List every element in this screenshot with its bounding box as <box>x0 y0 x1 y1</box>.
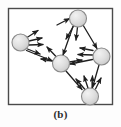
edge-left-out-3 <box>29 45 43 46</box>
graph-node-bottom <box>82 88 99 105</box>
edge-bottom-out-3 <box>92 76 93 88</box>
graph-node-left <box>12 34 29 51</box>
graph-node-right <box>93 48 110 65</box>
graph-node-center <box>53 55 70 72</box>
figure-panel-b: (b) <box>0 0 121 127</box>
graph-node-top <box>70 10 87 27</box>
figure-caption: (b) <box>0 108 121 121</box>
edge-right-out-2 <box>78 55 93 56</box>
